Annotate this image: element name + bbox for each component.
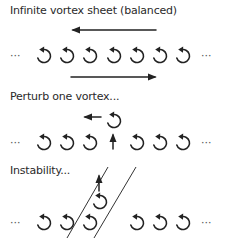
guide-line-1 (67, 167, 108, 238)
guide-line-2 (94, 167, 136, 238)
vortex-icon (84, 46, 97, 62)
left-ellipsis: ··· (10, 49, 21, 62)
vortex-icon (154, 46, 167, 62)
right-ellipsis: ··· (201, 49, 212, 62)
left-ellipsis: ··· (10, 216, 21, 229)
vortex-icon (38, 46, 51, 62)
vortex-icon (177, 213, 190, 229)
left-ellipsis: ··· (10, 136, 21, 149)
vortex-icon (108, 46, 121, 62)
perturbed-vortex-icon (94, 192, 107, 208)
right-ellipsis: ··· (201, 136, 212, 149)
vortex-icon (61, 46, 74, 62)
vortex-icon (61, 133, 74, 149)
vortex-icon (154, 213, 167, 229)
panel-3: ··· ··· (10, 167, 212, 238)
panel-2: ··· ··· (10, 111, 212, 149)
vortex-icon (84, 213, 97, 229)
vortex-icon (131, 133, 144, 149)
vortex-icon (154, 133, 167, 149)
panel-1: ··· ··· (10, 30, 212, 77)
vortex-icon (131, 213, 144, 229)
vortex-icon (131, 46, 144, 62)
vortex-icon (38, 133, 51, 149)
vortex-icon (84, 133, 97, 149)
vortex-icon (177, 46, 190, 62)
vortex-icon (61, 213, 74, 229)
vortex-icon (177, 133, 190, 149)
right-ellipsis: ··· (201, 216, 212, 229)
vortex-sheet-diagram: ··· ··· ··· ··· ··· ··· (0, 0, 229, 248)
vortex-icon (38, 213, 51, 229)
perturbed-vortex-icon (108, 111, 121, 127)
